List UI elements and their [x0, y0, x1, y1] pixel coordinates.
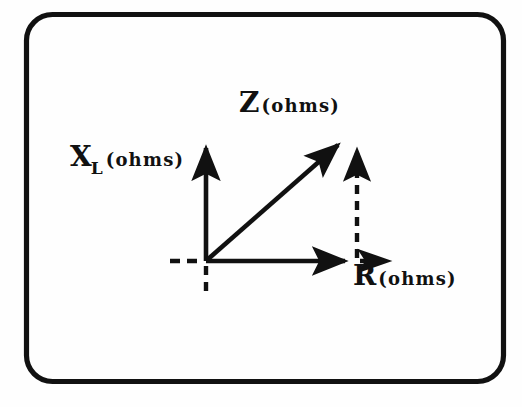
y-axis-label-symbol: X: [70, 140, 92, 173]
y-axis-label-unit: (ohms): [106, 149, 185, 170]
x-axis-label-unit: (ohms): [378, 268, 457, 289]
y-axis-label: XL(ohms): [70, 143, 184, 173]
x-axis-label: R(ohms): [353, 262, 457, 290]
figure-canvas: XL(ohms) Z(ohms) R(ohms): [0, 0, 522, 407]
z-vector-label-unit: (ohms): [261, 95, 340, 116]
y-axis-label-subscript: L: [91, 158, 103, 178]
z-vector-line: [207, 145, 338, 260]
z-vector-label-symbol: Z: [239, 86, 259, 119]
figure-frame: [27, 15, 504, 382]
impedance-diagram-svg: [0, 0, 522, 407]
z-vector-label: Z(ohms): [239, 89, 340, 117]
x-axis-label-symbol: R: [353, 259, 376, 292]
